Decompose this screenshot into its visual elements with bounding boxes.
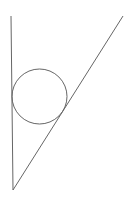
geometry-figure [0,0,133,199]
diagram-canvas [0,0,133,199]
right-line [13,16,123,190]
inscribed-circle [12,69,67,124]
